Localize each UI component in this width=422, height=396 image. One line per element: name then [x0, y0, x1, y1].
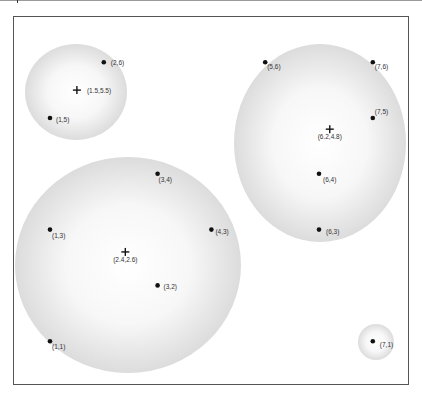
centroid-label: (2.4,2.6)	[113, 256, 137, 264]
data-point-label: (3,4)	[159, 176, 172, 184]
data-point-label: (2,6)	[111, 59, 124, 67]
data-point-label: (7,5)	[375, 108, 388, 116]
data-point	[371, 116, 376, 121]
data-point-label: (6,4)	[323, 176, 336, 184]
data-point	[209, 227, 214, 232]
data-point	[102, 60, 107, 65]
cluster-region-cluster-c	[234, 44, 406, 242]
cluster-diagram: (2,6)(1,5)(1.5,5.5)(3,4)(1,3)(4,3)(3,2)(…	[0, 0, 422, 396]
data-point-label: (7,6)	[375, 63, 388, 71]
data-point	[371, 339, 376, 344]
data-point-label: (6,3)	[326, 228, 339, 236]
data-point	[48, 116, 53, 121]
data-point	[317, 172, 322, 177]
data-point	[317, 227, 322, 232]
data-point-label: (1,1)	[52, 343, 65, 351]
centroid-label: (1.5,5.5)	[87, 87, 111, 95]
centroid-label: (6.2,4.8)	[318, 133, 342, 141]
data-point	[155, 283, 160, 288]
data-point-label: (7,1)	[380, 341, 393, 349]
data-point-label: (3,2)	[164, 283, 177, 291]
data-point-label: (4,3)	[215, 228, 228, 236]
data-point-label: (5,6)	[267, 63, 280, 71]
data-point-label: (1,5)	[56, 116, 69, 124]
data-point-label: (1,3)	[52, 232, 65, 240]
